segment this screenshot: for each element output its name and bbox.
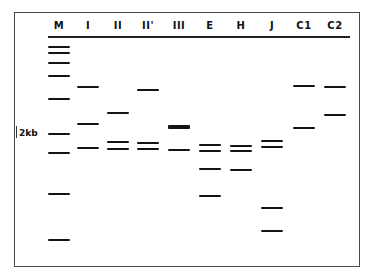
- band-j-3: [261, 207, 283, 209]
- band-c1-1: [293, 85, 315, 87]
- band-j-1: [261, 140, 283, 142]
- header-underline: [48, 36, 350, 38]
- band-m-9: [48, 239, 70, 241]
- lane-label-iip: II': [133, 20, 163, 32]
- size-marker-label: 2kb: [19, 128, 38, 139]
- band-m-4: [48, 75, 70, 77]
- band-e-2: [199, 150, 221, 152]
- band-m-1: [48, 46, 70, 48]
- band-m-5: [48, 98, 70, 100]
- lane-label-c2: C2: [320, 20, 350, 32]
- size-marker-tick: [16, 126, 17, 138]
- band-m-2: [48, 52, 70, 54]
- band-m-8: [48, 193, 70, 195]
- lane-label-j: J: [257, 20, 287, 32]
- band-j-4: [261, 230, 283, 232]
- band-m-6: [48, 133, 70, 135]
- band-j-2: [261, 146, 283, 148]
- lane-label-c1: C1: [289, 20, 319, 32]
- lane-label-h: H: [226, 20, 256, 32]
- band-iip-2: [137, 142, 159, 144]
- band-h-1: [230, 145, 252, 147]
- lane-label-i: I: [73, 20, 103, 32]
- band-c2-2: [324, 114, 346, 116]
- band-m-7: [48, 152, 70, 154]
- band-ii-3: [107, 148, 129, 150]
- band-h-3: [230, 169, 252, 171]
- band-iip-3: [137, 148, 159, 150]
- band-i-3: [77, 147, 99, 149]
- band-e-1: [199, 144, 221, 146]
- lane-label-iii: III: [164, 20, 194, 32]
- band-ii-2: [107, 141, 129, 143]
- lane-label-e: E: [195, 20, 225, 32]
- band-c1-2: [293, 127, 315, 129]
- band-c2-1: [324, 86, 346, 88]
- lane-label-m: M: [44, 20, 74, 32]
- band-m-3: [48, 62, 70, 64]
- band-iii-1: [168, 125, 190, 129]
- band-e-3: [199, 168, 221, 170]
- band-e-4: [199, 195, 221, 197]
- band-iip-1: [137, 89, 159, 91]
- lane-label-ii: II: [103, 20, 133, 32]
- band-i-1: [77, 86, 99, 88]
- band-ii-1: [107, 112, 129, 114]
- band-iii-2: [168, 149, 190, 151]
- band-h-2: [230, 150, 252, 152]
- band-i-2: [77, 123, 99, 125]
- gel-frame: [14, 12, 360, 267]
